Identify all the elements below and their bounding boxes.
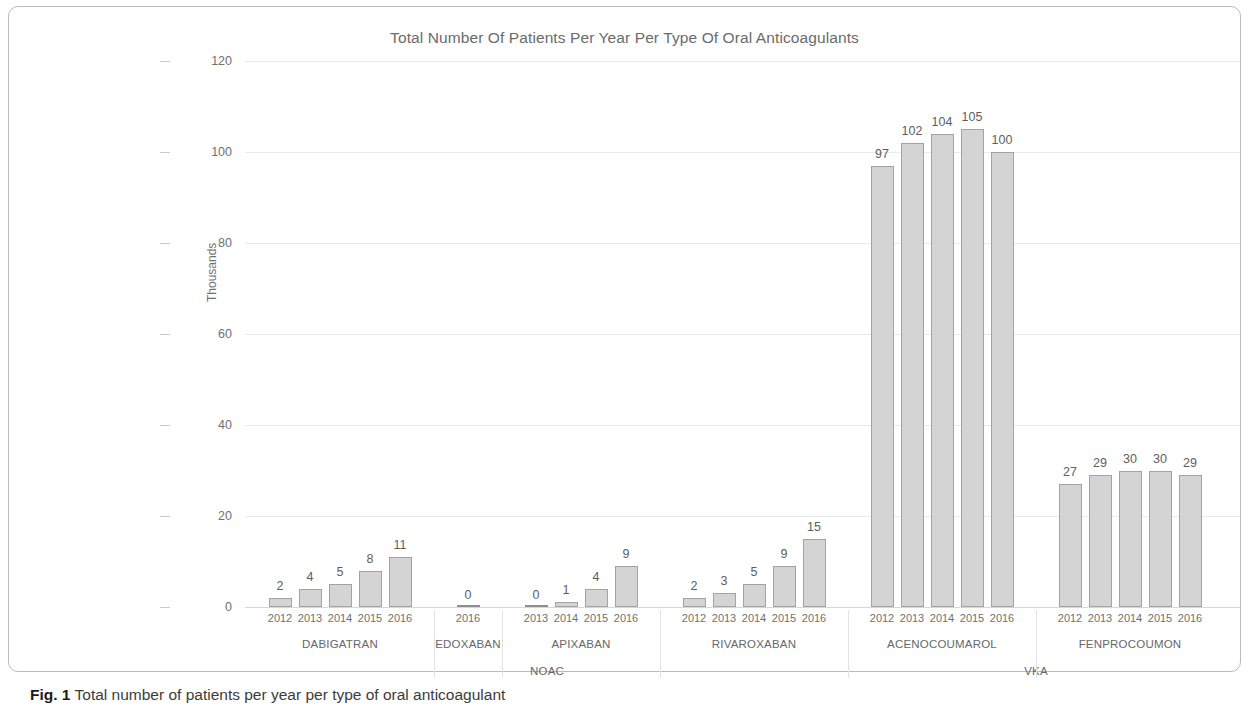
bar-value-label: 11 bbox=[394, 538, 407, 552]
year-label: 2015 bbox=[584, 612, 608, 624]
drug-group-label: RIVAROXABAN bbox=[712, 638, 796, 650]
bar bbox=[525, 605, 548, 607]
drug-group-label: EDOXABAN bbox=[435, 638, 501, 650]
bar-value-label: 4 bbox=[593, 570, 600, 584]
bar-value-label: 4 bbox=[307, 570, 314, 584]
year-label: 2015 bbox=[960, 612, 984, 624]
year-label: 2012 bbox=[870, 612, 894, 624]
caption-prefix: Fig. 1 bbox=[30, 686, 70, 703]
group-separator bbox=[848, 610, 849, 678]
bar bbox=[901, 143, 924, 607]
bar bbox=[615, 566, 638, 607]
bar-value-label: 30 bbox=[1123, 452, 1137, 466]
year-label: 2012 bbox=[268, 612, 292, 624]
y-tick-mark bbox=[160, 61, 170, 62]
chart-title: Total Number Of Patients Per Year Per Ty… bbox=[9, 29, 1240, 47]
bar-value-label: 15 bbox=[807, 520, 821, 534]
bar bbox=[269, 598, 292, 607]
bar bbox=[1149, 471, 1172, 608]
bar bbox=[585, 589, 608, 607]
year-label: 2016 bbox=[614, 612, 638, 624]
gridline bbox=[245, 334, 1240, 335]
bar-value-label: 104 bbox=[932, 115, 953, 129]
year-label: 2014 bbox=[328, 612, 352, 624]
bar-value-label: 9 bbox=[781, 547, 788, 561]
bar-value-label: 2 bbox=[277, 579, 284, 593]
year-label: 2015 bbox=[1148, 612, 1172, 624]
plot-area: 020406080100120 245811001492359159710210… bbox=[245, 52, 1240, 614]
y-tick-mark bbox=[160, 516, 170, 517]
y-tick-label: 40 bbox=[172, 418, 232, 432]
year-label: 2016 bbox=[1178, 612, 1202, 624]
y-tick-mark bbox=[160, 607, 170, 608]
y-tick-label: 20 bbox=[172, 509, 232, 523]
bar-value-label: 5 bbox=[337, 565, 344, 579]
y-tick-label: 100 bbox=[172, 145, 232, 159]
bar bbox=[1059, 484, 1082, 607]
bar bbox=[743, 584, 766, 607]
bar bbox=[1089, 475, 1112, 607]
bar bbox=[713, 593, 736, 607]
year-label: 2014 bbox=[742, 612, 766, 624]
year-label: 2013 bbox=[524, 612, 548, 624]
year-label: 2016 bbox=[388, 612, 412, 624]
year-label: 2014 bbox=[554, 612, 578, 624]
y-tick-label: 60 bbox=[172, 327, 232, 341]
gridline bbox=[245, 61, 1240, 62]
bar-value-label: 0 bbox=[533, 588, 540, 602]
bar-value-label: 97 bbox=[875, 147, 889, 161]
caption-text: Total number of patients per year per ty… bbox=[75, 686, 506, 703]
group-separator bbox=[660, 610, 661, 678]
bar-value-label: 1 bbox=[563, 583, 570, 597]
x-axis-baseline bbox=[245, 607, 1240, 608]
drug-class-label: NOAC bbox=[530, 665, 564, 677]
year-label: 2015 bbox=[772, 612, 796, 624]
group-separator bbox=[502, 610, 503, 678]
bar bbox=[871, 166, 894, 607]
year-label: 2015 bbox=[358, 612, 382, 624]
bar bbox=[961, 129, 984, 607]
year-label: 2016 bbox=[456, 612, 480, 624]
year-label: 2012 bbox=[1058, 612, 1082, 624]
drug-group-label: ACENOCOUMAROL bbox=[887, 638, 997, 650]
y-axis-title: Thousands bbox=[205, 243, 219, 302]
y-tick-label: 0 bbox=[172, 600, 232, 614]
year-label: 2014 bbox=[930, 612, 954, 624]
bar-value-label: 2 bbox=[691, 579, 698, 593]
bar-value-label: 9 bbox=[623, 547, 630, 561]
y-tick-label: 80 bbox=[172, 236, 232, 250]
bar bbox=[389, 557, 412, 607]
bar bbox=[555, 602, 578, 607]
y-tick-mark bbox=[160, 243, 170, 244]
bar bbox=[803, 539, 826, 607]
y-tick-mark bbox=[160, 152, 170, 153]
year-label: 2016 bbox=[990, 612, 1014, 624]
drug-group-label: APIXABAN bbox=[551, 638, 610, 650]
gridline bbox=[245, 243, 1240, 244]
year-label: 2013 bbox=[712, 612, 736, 624]
y-tick-label: 120 bbox=[172, 54, 232, 68]
bar-value-label: 30 bbox=[1153, 452, 1167, 466]
year-label: 2014 bbox=[1118, 612, 1142, 624]
bar-value-label: 5 bbox=[751, 565, 758, 579]
year-label: 2013 bbox=[1088, 612, 1112, 624]
bar bbox=[683, 598, 706, 607]
bar bbox=[773, 566, 796, 607]
year-label: 2016 bbox=[802, 612, 826, 624]
bar bbox=[457, 605, 480, 607]
year-label: 2013 bbox=[298, 612, 322, 624]
y-tick-mark bbox=[160, 425, 170, 426]
bar bbox=[991, 152, 1014, 607]
gridline bbox=[245, 152, 1240, 153]
bar bbox=[299, 589, 322, 607]
bar-value-label: 0 bbox=[465, 588, 472, 602]
drug-group-label: FENPROCOUMON bbox=[1079, 638, 1182, 650]
gridline bbox=[245, 425, 1240, 426]
group-separator bbox=[1036, 610, 1037, 678]
bar bbox=[359, 571, 382, 607]
bar-value-label: 3 bbox=[721, 574, 728, 588]
year-label: 2012 bbox=[682, 612, 706, 624]
bar bbox=[1179, 475, 1202, 607]
bar-value-label: 100 bbox=[992, 133, 1013, 147]
figure-frame: Total Number Of Patients Per Year Per Ty… bbox=[8, 6, 1241, 672]
